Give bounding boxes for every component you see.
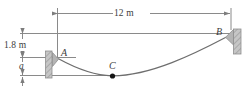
point-marker-c (110, 73, 115, 78)
span-dimension-label: 12 m (114, 9, 134, 19)
pin-support-right-icon (226, 30, 234, 46)
figure-container: 12 m 1.8 m a A B C (0, 0, 247, 92)
point-label-a: A (61, 48, 67, 58)
point-label-c: C (109, 61, 116, 71)
sag-dimension-label: a (19, 62, 24, 72)
support-wall-right (234, 29, 242, 54)
cable-curve (59, 38, 226, 76)
support-wall-left (46, 51, 53, 78)
vertical-dimension-label: 1.8 m (4, 41, 26, 51)
point-label-b: B (216, 27, 222, 37)
